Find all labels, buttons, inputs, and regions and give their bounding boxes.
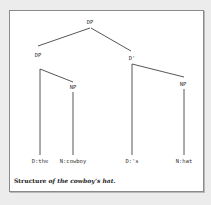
node-dp-left: DP (35, 53, 42, 59)
leaf-n-hat: N:hat (176, 159, 193, 165)
node-root-dp: DP (87, 20, 94, 26)
edge-dp-to-np (40, 69, 73, 82)
edge-dp-to-dp (38, 28, 90, 46)
caption-rest: of the cowboy’s hat. (46, 177, 115, 184)
figure-caption: Structure of the cowboy’s hat. (14, 178, 116, 184)
node-d-bar: D' (129, 56, 136, 62)
caption-lead: Structure (14, 177, 46, 184)
leaf-d-the: D:the (32, 159, 49, 165)
leaf-n-cowboy: N:cowboy (60, 159, 87, 165)
node-np-left: NP (70, 85, 77, 91)
edge-dbar-to-np (132, 64, 184, 77)
leaf-d-s: D:'s (125, 159, 138, 165)
node-np-right: NP (180, 82, 187, 88)
tree-edges (0, 0, 211, 205)
edge-dp-to-dbar (91, 28, 131, 51)
